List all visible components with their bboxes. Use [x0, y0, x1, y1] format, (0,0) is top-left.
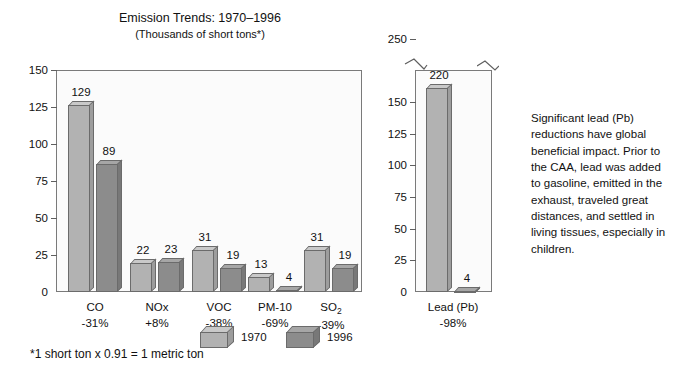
y-tick-mark	[51, 255, 57, 256]
legend-swatch-front	[200, 332, 228, 348]
bar-value-label: 31	[296, 231, 338, 243]
category-change: -98%	[408, 316, 498, 332]
bar-front-face	[130, 263, 152, 292]
bar-front-face	[68, 105, 90, 292]
y-tick-mark	[410, 229, 416, 230]
y-tick-label: 25	[14, 249, 48, 261]
y-tick-label: 75	[373, 191, 407, 203]
bar-so2-1996	[332, 264, 358, 292]
title-block: Emission Trends: 1970–1996 (Thousands of…	[0, 10, 400, 42]
bar-lead-1996	[454, 287, 480, 292]
bar-value-label: 129	[60, 86, 102, 98]
legend-label: 1970	[241, 331, 267, 343]
category-name: SO2	[320, 301, 341, 313]
bar-value-label: 13	[240, 258, 282, 270]
bar-nox-1970	[130, 259, 156, 292]
legend-swatch	[286, 326, 320, 348]
category-name: NOx	[146, 301, 169, 313]
bar-value-label: 19	[324, 249, 366, 261]
y-tick-label: 50	[14, 212, 48, 224]
axis-break-icon	[404, 50, 428, 78]
bar-value-label: 23	[150, 243, 192, 255]
bar-value-label: 31	[184, 231, 226, 243]
y-tick-mark	[51, 181, 57, 182]
legend-swatch	[200, 326, 234, 348]
bar-front-face	[220, 268, 242, 292]
y-tick-label: 25	[373, 254, 407, 266]
y-tick-label: 100	[14, 138, 48, 150]
y-tick-mark	[410, 197, 416, 198]
y-tick-mark	[51, 107, 57, 108]
bar-front-face	[304, 250, 326, 292]
page-title: Emission Trends: 1970–1996	[0, 10, 400, 27]
axis-break-upper-stub	[410, 39, 416, 40]
side-note-text: Significant lead (Pb) reductions have gl…	[531, 110, 671, 257]
bar-pm-10-1996	[276, 286, 302, 292]
y-tick-label: 150	[373, 96, 407, 108]
bar-front-face	[96, 164, 118, 292]
y-tick-label: 75	[14, 175, 48, 187]
category-name: PM-10	[258, 301, 292, 313]
bar-front-face	[276, 290, 298, 292]
bar-co-1996	[96, 160, 122, 292]
category-name: CO	[86, 301, 103, 313]
bar-front-face	[332, 268, 354, 292]
y-tick-mark	[410, 165, 416, 166]
legend-item-1970[interactable]: 1970	[200, 326, 267, 348]
bar-value-label: 4	[446, 272, 488, 284]
legend-label: 1996	[327, 331, 353, 343]
y-tick-label: 100	[373, 159, 407, 171]
legend-swatch-front	[286, 332, 314, 348]
bar-value-label: 89	[88, 145, 130, 157]
y-tick-mark	[410, 102, 416, 103]
chart-subtitle: (Thousands of short tons*)	[0, 27, 400, 42]
y-tick-label: 150	[14, 64, 48, 76]
category-label: Lead (Pb)-98%	[408, 300, 498, 331]
bar-front-face	[248, 277, 270, 292]
y-tick-label: 0	[14, 286, 48, 298]
y-tick-label: 50	[373, 223, 407, 235]
axis-break-right-icon	[477, 50, 499, 78]
y-tick-mark	[410, 134, 416, 135]
y-tick-label: 0	[373, 286, 407, 298]
y-tick-label: 125	[373, 128, 407, 140]
legend-item-1996[interactable]: 1996	[286, 326, 353, 348]
y-tick-mark	[410, 260, 416, 261]
y-tick-mark	[51, 218, 57, 219]
bar-front-face	[454, 291, 476, 293]
bar-front-face	[192, 250, 214, 292]
bar-front-face	[158, 262, 180, 292]
bar-nox-1996	[158, 258, 184, 292]
bar-lead-1970	[426, 84, 452, 292]
bar-co-1970	[68, 101, 94, 292]
y-tick-mark	[51, 144, 57, 145]
category-name: Lead (Pb)	[428, 301, 479, 313]
y-tick-mark	[51, 70, 57, 71]
y-tick-label: 125	[14, 101, 48, 113]
category-name: VOC	[207, 301, 232, 313]
footnote: *1 short ton x 0.91 = 1 metric ton	[30, 347, 204, 361]
bar-front-face	[426, 88, 448, 292]
y-tick-label: 250	[373, 33, 407, 45]
